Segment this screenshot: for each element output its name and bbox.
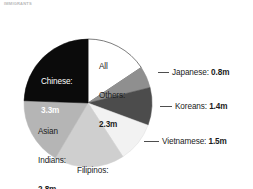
slice-label-all-others-line1: All xyxy=(99,62,125,72)
slice-label-filipinos: Filipinos: 2.6m xyxy=(77,147,108,189)
slice-label-all-others-line2: Others: xyxy=(99,91,125,101)
slice-label-all-others: All Others: 2.3m xyxy=(99,43,125,149)
slice-label-chinese-line1: Chinese: xyxy=(41,77,73,87)
callout-japanese-name: Japanese: xyxy=(172,68,211,77)
slice-value-asian-indians: 2.8m xyxy=(38,185,66,189)
callout-japanese: Japanese: 0.8m xyxy=(172,68,229,78)
slice-label-asian-indians: Asian Indians: 2.8m xyxy=(38,108,66,189)
callout-koreans-value: 1.4m xyxy=(209,102,227,111)
callout-japanese-value: 0.8m xyxy=(211,68,229,77)
slice-label-asian-indians-line2: Indians: xyxy=(38,156,66,166)
slice-label-filipinos-line1: Filipinos: xyxy=(77,166,108,176)
callout-vietnamese-value: 1.5m xyxy=(208,137,226,146)
callout-koreans-name: Koreans: xyxy=(175,102,209,111)
callout-vietnamese: Vietnamese: 1.5m xyxy=(162,137,227,147)
callout-vietnamese-name: Vietnamese: xyxy=(162,137,208,146)
slice-label-asian-indians-line1: Asian xyxy=(38,127,66,137)
callout-koreans: Koreans: 1.4m xyxy=(175,102,227,112)
pie-chart-figure: IMMIGRANTS All Others: 2 xyxy=(0,0,253,189)
slice-value-all-others: 2.3m xyxy=(99,120,125,130)
